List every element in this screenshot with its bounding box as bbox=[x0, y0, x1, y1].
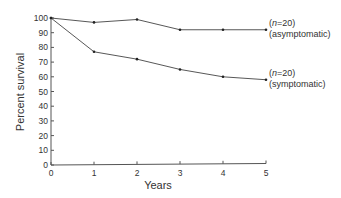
data-point bbox=[179, 28, 182, 31]
data-point bbox=[265, 28, 268, 31]
y-tick-label: 10 bbox=[39, 145, 49, 155]
y-tick-label: 80 bbox=[39, 42, 49, 52]
data-point bbox=[50, 17, 53, 20]
data-point bbox=[136, 18, 139, 21]
y-tick-label: 20 bbox=[39, 131, 49, 141]
data-point bbox=[222, 76, 225, 79]
data-point bbox=[265, 78, 268, 81]
annotation-symptomatic: (n=20) (symptomatic) bbox=[269, 68, 326, 89]
y-tick-label: 70 bbox=[39, 57, 49, 67]
x-tick-label: 0 bbox=[49, 168, 54, 178]
series-asymptomatic bbox=[50, 17, 268, 31]
data-point bbox=[93, 51, 96, 54]
x-axis-title: Years bbox=[144, 179, 172, 191]
svg-text:(asymptomatic): (asymptomatic) bbox=[269, 29, 331, 39]
data-point bbox=[136, 58, 139, 61]
x-tick-label: 3 bbox=[178, 168, 183, 178]
data-point bbox=[179, 68, 182, 71]
x-tick-label: 2 bbox=[135, 168, 140, 178]
data-point bbox=[222, 28, 225, 31]
svg-text:(n=20): (n=20) bbox=[269, 18, 295, 28]
series-lines bbox=[50, 17, 268, 81]
y-axis-title: Percent survival bbox=[14, 53, 26, 131]
data-point bbox=[93, 21, 96, 24]
y-axis: 0102030405060708090100 bbox=[34, 13, 54, 170]
survival-chart: 0102030405060708090100 012345 Percent su… bbox=[0, 0, 341, 198]
y-tick-label: 60 bbox=[39, 72, 49, 82]
y-tick-label: 90 bbox=[39, 28, 49, 38]
x-axis: 012345 bbox=[49, 161, 269, 179]
y-tick-label: 40 bbox=[39, 101, 49, 111]
x-tick-label: 5 bbox=[264, 168, 269, 178]
x-tick-label: 1 bbox=[92, 168, 97, 178]
y-tick-label: 50 bbox=[39, 87, 49, 97]
series-symptomatic bbox=[50, 17, 268, 81]
x-tick-label: 4 bbox=[221, 168, 226, 178]
annotation-asymptomatic: (n=20) (asymptomatic) bbox=[269, 18, 331, 39]
y-tick-label: 100 bbox=[34, 13, 48, 23]
y-tick-label: 30 bbox=[39, 116, 49, 126]
svg-text:(symptomatic): (symptomatic) bbox=[269, 79, 326, 89]
svg-text:(n=20): (n=20) bbox=[269, 68, 295, 78]
y-tick-label: 0 bbox=[43, 160, 48, 170]
